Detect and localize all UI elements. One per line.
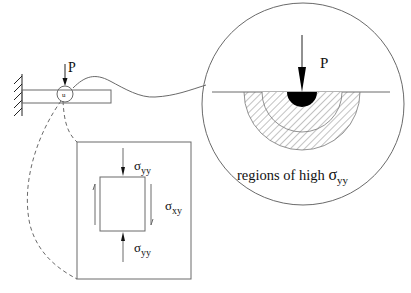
element-callout-right xyxy=(63,101,77,142)
detail-load-label: P xyxy=(320,55,328,71)
top-normal-stress-label: σyy xyxy=(134,158,151,176)
shear-stress-arrows xyxy=(93,184,153,225)
bottom-normal-stress-arrow xyxy=(121,232,125,262)
shear-stress-label: σxy xyxy=(165,198,182,216)
beam xyxy=(22,90,111,103)
stress-element-square xyxy=(100,177,145,231)
fixed-wall-support xyxy=(14,74,22,116)
stress-region-caption: regions of high σyy xyxy=(237,166,349,186)
top-normal-stress-arrow xyxy=(121,148,125,176)
detail-load-arrow xyxy=(298,35,306,92)
bottom-normal-stress-label: σyy xyxy=(134,240,151,258)
beam-load-arrow xyxy=(63,64,68,86)
element-callout-left xyxy=(27,101,77,279)
zoom-marker-label: u xyxy=(62,91,66,99)
contact-stress-diagram: P u P regions of high σyy σyy σxy σyy xyxy=(0,0,411,293)
beam-load-label: P xyxy=(68,60,76,75)
detail-connector-curve xyxy=(73,77,206,98)
